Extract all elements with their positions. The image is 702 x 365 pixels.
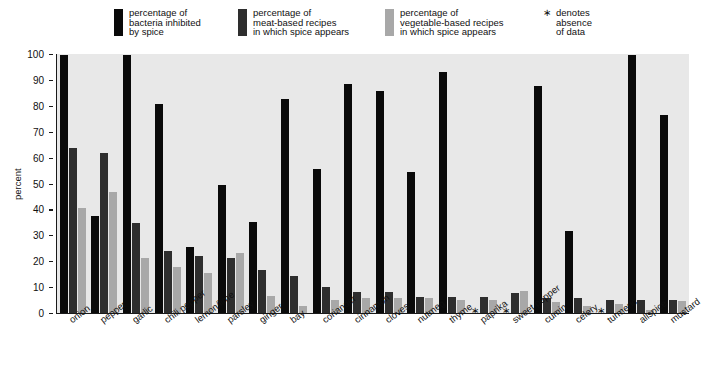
bar-group	[626, 54, 658, 314]
bar	[313, 169, 321, 314]
y-axis-tick-mark	[49, 184, 53, 185]
y-axis-tick-label: 20	[8, 256, 44, 267]
bar	[565, 231, 573, 314]
bar-group	[57, 54, 89, 314]
y-axis-tick-label: 80	[8, 100, 44, 111]
bar	[100, 153, 108, 314]
bar	[660, 115, 668, 314]
bar	[407, 172, 415, 314]
y-axis-tick-label: 10	[8, 282, 44, 293]
y-axis-tick-label: 40	[8, 204, 44, 215]
bar-group: ∗	[468, 54, 500, 314]
y-axis-tick-label: 0	[8, 308, 44, 319]
legend-item-vegetable: percentage of vegetable-based recipes in…	[385, 8, 504, 37]
bar	[534, 86, 542, 314]
y-axis-tick-mark	[49, 261, 53, 262]
y-axis-tick-mark	[49, 106, 53, 107]
bar	[376, 91, 384, 314]
y-axis-tick-mark	[49, 132, 53, 133]
bar-group	[531, 54, 563, 314]
chart-legend: percentage of bacteria inhibited by spic…	[0, 0, 693, 46]
y-axis-tick-label: 90	[8, 74, 44, 85]
legend-missing-data-note: ∗ denotes absence of data	[543, 8, 592, 37]
bar	[344, 84, 352, 315]
legend-note-text: denotes absence of data	[556, 8, 592, 37]
bar	[628, 55, 636, 314]
bar	[109, 192, 117, 314]
legend-label-meat: percentage of meat-based recipes in whic…	[253, 8, 349, 37]
bar-group	[405, 54, 437, 314]
bar	[132, 223, 140, 314]
bar-group	[436, 54, 468, 314]
bar	[227, 258, 235, 314]
bar	[60, 55, 68, 314]
y-axis-tick-mark	[49, 287, 53, 288]
bar	[69, 148, 77, 314]
y-axis-tick-mark	[49, 80, 53, 81]
legend-item-bacteria: percentage of bacteria inhibited by spic…	[114, 8, 201, 37]
bar-groups: ∗∗∗	[57, 54, 689, 314]
y-axis-tick-mark	[49, 235, 53, 236]
x-axis-labels: onionpeppergarlicchili pepperlemon/limep…	[56, 314, 689, 365]
bar-group	[310, 54, 342, 314]
bar-group	[563, 54, 595, 314]
y-axis-tick-mark	[49, 313, 53, 314]
y-axis-tick-label: 100	[8, 49, 44, 60]
y-axis-tick-mark	[49, 158, 53, 159]
bar-group	[278, 54, 310, 314]
y-axis-tick-label: 60	[8, 152, 44, 163]
bar-group	[152, 54, 184, 314]
plot-area: ∗∗∗	[56, 54, 689, 314]
y-axis-title: percent	[12, 168, 23, 200]
legend-swatch-vegetable	[385, 9, 394, 36]
y-axis-tick-mark	[49, 54, 53, 55]
legend-swatch-bacteria	[114, 9, 123, 36]
bar	[164, 251, 172, 314]
legend-swatch-meat	[238, 9, 247, 36]
bar-group	[89, 54, 121, 314]
missing-data-marker: ∗	[502, 54, 510, 314]
legend-label-bacteria: percentage of bacteria inhibited by spic…	[129, 8, 201, 37]
bar-group	[657, 54, 689, 314]
bar	[281, 99, 289, 314]
bar-group	[183, 54, 215, 314]
bar-group: ∗	[499, 54, 531, 314]
bar-group	[215, 54, 247, 314]
bar	[91, 216, 99, 314]
y-axis-tick-label: 30	[8, 230, 44, 241]
bar-group	[120, 54, 152, 314]
bar	[258, 270, 266, 314]
bar	[195, 256, 203, 314]
asterisk-icon: ∗	[543, 8, 551, 18]
y-axis-tick-label: 70	[8, 126, 44, 137]
bar	[78, 208, 86, 314]
missing-data-marker: ∗	[597, 54, 605, 314]
bar-group: ∗	[594, 54, 626, 314]
bar-group	[373, 54, 405, 314]
y-axis-tick-mark	[49, 209, 53, 210]
legend-item-meat: percentage of meat-based recipes in whic…	[238, 8, 349, 37]
bar	[123, 55, 131, 314]
bar	[155, 104, 163, 314]
bar	[439, 72, 447, 314]
bar-group	[247, 54, 279, 314]
legend-label-vegetable: percentage of vegetable-based recipes in…	[400, 8, 504, 37]
missing-data-marker: ∗	[471, 54, 479, 314]
bar-group	[341, 54, 373, 314]
